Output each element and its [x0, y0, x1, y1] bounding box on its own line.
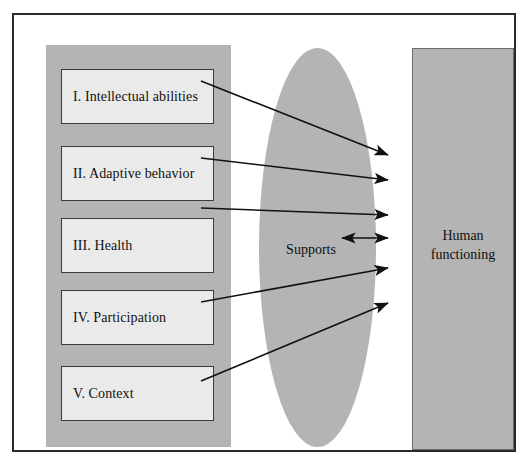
dimension-box-intellectual-abilities[interactable]: I. Intellectual abilities: [61, 69, 214, 124]
dimension-box-label: III. Health: [73, 238, 132, 254]
human-functioning-label-line2: functioning: [412, 245, 514, 264]
human-functioning-label: Human functioning: [412, 226, 514, 264]
dimension-box-participation[interactable]: IV. Participation: [61, 290, 214, 345]
dimension-box-label: V. Context: [73, 386, 134, 402]
supports-label: Supports: [263, 242, 359, 258]
dimension-box-health[interactable]: III. Health: [61, 218, 214, 273]
dimension-box-label: IV. Participation: [73, 310, 166, 326]
dimension-box-label: II. Adaptive behavior: [73, 166, 194, 182]
human-functioning-label-line1: Human: [412, 226, 514, 245]
dimension-box-context[interactable]: V. Context: [61, 366, 214, 421]
dimension-box-adaptive-behavior[interactable]: II. Adaptive behavior: [61, 146, 214, 201]
dimension-box-label: I. Intellectual abilities: [73, 89, 198, 105]
diagram-outer-frame: I. Intellectual abilities II. Adaptive b…: [12, 13, 516, 452]
diagram-canvas: I. Intellectual abilities II. Adaptive b…: [0, 0, 529, 465]
